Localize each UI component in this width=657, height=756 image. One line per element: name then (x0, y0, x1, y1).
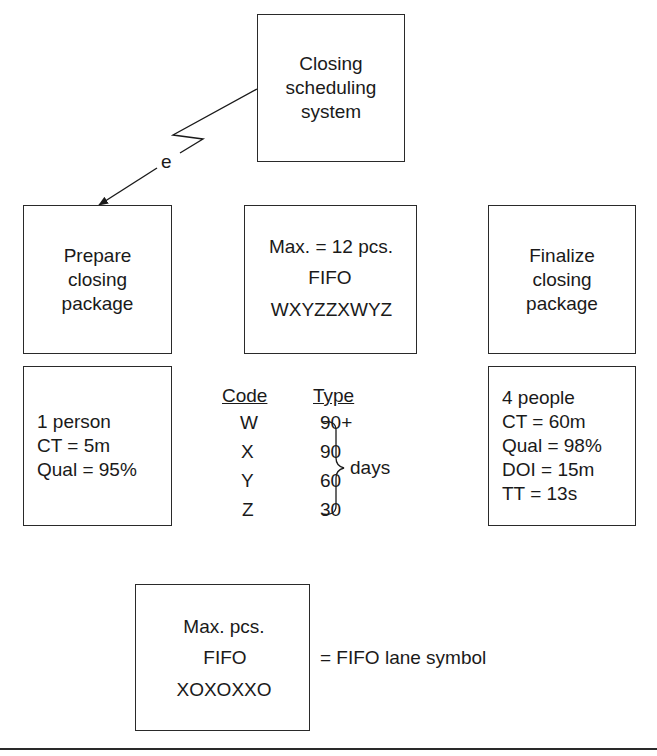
finalize-staff: 4 people (502, 386, 635, 410)
code-x: X (241, 440, 254, 464)
bottom-rule (0, 748, 657, 750)
prepare-closing-package-box: Prepare closing package (23, 205, 172, 354)
legend-max-label: Max. pcs. (160, 615, 288, 639)
prepare-quality: Qual = 95% (37, 458, 171, 482)
finalize-cycle-time: CT = 60m (502, 410, 635, 434)
legend-fifo-label: FIFO (196, 646, 254, 670)
prepare-data-box: 1 person CT = 5m Qual = 95% (23, 366, 172, 526)
prepare-line-3: package (62, 292, 134, 316)
type-y: 60 (320, 469, 341, 493)
closing-scheduling-system-box: Closing scheduling system (257, 14, 405, 162)
type-z: 30 (320, 498, 341, 522)
fifo-max-label: Max. = 12 pcs. (257, 235, 405, 259)
code-z: Z (242, 498, 254, 522)
code-y: Y (241, 469, 254, 493)
system-line-2: scheduling (286, 76, 377, 100)
prepare-cycle-time: CT = 5m (37, 434, 171, 458)
legend-sequence: XOXOXXO (160, 678, 288, 702)
finalize-quality: Qual = 98% (502, 434, 635, 458)
electronic-flow-arrow (99, 89, 257, 205)
prepare-line-2: closing (68, 268, 127, 292)
days-label: days (350, 456, 390, 480)
finalize-closing-package-box: Finalize closing package (488, 205, 636, 354)
finalize-line-1: Finalize (529, 244, 594, 268)
finalize-doi: DOI = 15m (502, 458, 635, 482)
fifo-sequence: WXYZZXWYZ (250, 298, 413, 322)
type-x: 90 (320, 440, 341, 464)
code-w: W (240, 411, 258, 435)
legend-description: = FIFO lane symbol (320, 646, 486, 670)
type-w: 90+ (320, 411, 352, 435)
finalize-takt-time: TT = 13s (502, 482, 635, 506)
finalize-line-3: package (526, 292, 598, 316)
finalize-data-box: 4 people CT = 60m Qual = 98% DOI = 15m T… (488, 366, 636, 526)
finalize-line-2: closing (532, 268, 591, 292)
code-header: Code (222, 384, 267, 408)
fifo-label: FIFO (300, 266, 360, 290)
system-line-3: system (301, 100, 361, 124)
electronic-link-label: e (161, 150, 172, 174)
prepare-line-1: Prepare (64, 244, 132, 268)
prepare-staff: 1 person (37, 410, 171, 434)
type-header: Type (313, 384, 354, 408)
system-line-1: Closing (299, 52, 362, 76)
